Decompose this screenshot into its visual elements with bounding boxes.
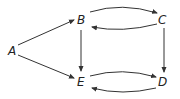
graph-diagram: A B C D E — [0, 0, 180, 99]
node-d: D — [158, 75, 167, 89]
edge-e-to-d — [90, 72, 156, 77]
edge-c-to-b — [92, 24, 157, 29]
edge-a-to-e — [18, 55, 74, 78]
edge-d-to-e — [92, 88, 156, 92]
node-e: E — [77, 75, 85, 89]
node-c: C — [158, 13, 167, 27]
edge-b-to-c — [90, 7, 157, 13]
edge-a-to-b — [18, 20, 74, 45]
node-a: A — [7, 44, 16, 58]
node-b: B — [77, 13, 85, 27]
